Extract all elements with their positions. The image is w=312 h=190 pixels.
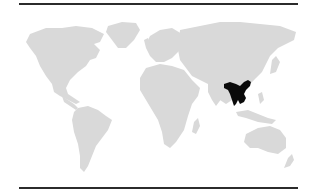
europe	[146, 28, 184, 62]
india	[208, 82, 226, 106]
japan	[270, 56, 280, 74]
world-map	[0, 0, 312, 190]
africa	[140, 64, 200, 148]
madagascar	[192, 118, 200, 134]
greenland	[106, 22, 140, 48]
australia	[244, 126, 286, 154]
north-america	[26, 26, 104, 104]
bottom-rule	[19, 187, 298, 189]
indonesia	[236, 110, 276, 124]
philippines	[258, 92, 264, 104]
new-zealand	[284, 154, 294, 168]
south-america	[72, 106, 112, 172]
land	[26, 22, 296, 172]
